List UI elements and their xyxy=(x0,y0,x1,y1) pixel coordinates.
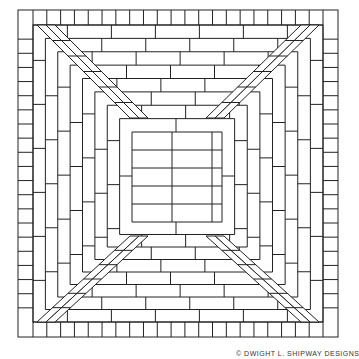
copyright-caption: © DWIGHT L. SHIPWAY DESIGNS xyxy=(236,350,359,357)
